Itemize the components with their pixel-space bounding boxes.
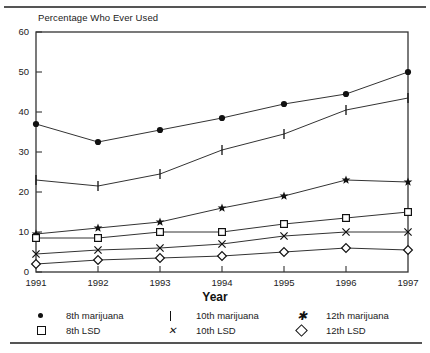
legend-item-label: 8th LSD [66,325,100,336]
series-8th-marijuana [33,69,411,145]
series-10th-marijuana [36,93,408,191]
x-tick-label: 1996 [335,277,356,288]
y-tick-label: 0 [24,266,29,277]
vertical-bar-marker-icon [166,310,188,322]
legend-item-8th-marijuana[interactable]: 8th marijuana [36,308,166,323]
figure-container: Percentage Who Ever Used 010203040506019… [0,0,430,353]
legend-item-10th-lsd[interactable]: ✕ 10th LSD [166,323,296,338]
x-axis-title: Year [0,290,430,304]
y-tick-label: 20 [18,186,29,197]
y-tick-label: 50 [18,66,29,77]
y-tick-label: 10 [18,226,29,237]
x-tick-label: 1993 [149,277,170,288]
x-tick-label: 1992 [87,277,108,288]
legend-item-label: 10th marijuana [196,310,259,321]
legend-item-label: 12th LSD [326,325,366,336]
x-cross-marker-icon: ✕ [166,325,188,337]
y-tick-label: 30 [18,146,29,157]
series-8th-lsd [33,209,412,242]
chart-legend: 8th marijuana 8th LSD 10th marijuana ✕ 1… [36,308,426,338]
x-tick-label: 1994 [211,277,232,288]
legend-item-label: 8th marijuana [66,310,124,321]
chart-plot-area: 0102030405060199119921993199419951996199… [0,0,430,300]
filled-star-marker-icon: ✱ [296,310,318,322]
x-tick-label: 1997 [397,277,418,288]
legend-item-8th-lsd[interactable]: 8th LSD [36,323,166,338]
x-tick-label: 1995 [273,277,294,288]
y-tick-label: 40 [18,106,29,117]
y-tick-label: 60 [18,26,29,37]
bottom-divider-rule [10,342,422,344]
open-diamond-marker-icon [296,325,318,337]
legend-item-label: 10th LSD [196,325,236,336]
open-square-marker-icon [36,325,58,337]
legend-item-label: 12th marijuana [326,310,389,321]
legend-item-12th-marijuana[interactable]: ✱ 12th marijuana [296,308,426,323]
series-12th-lsd [32,244,413,269]
x-tick-label: 1991 [25,277,46,288]
filled-circle-marker-icon [36,310,58,322]
legend-item-12th-lsd[interactable]: 12th LSD [296,323,426,338]
legend-item-10th-marijuana[interactable]: 10th marijuana [166,308,296,323]
